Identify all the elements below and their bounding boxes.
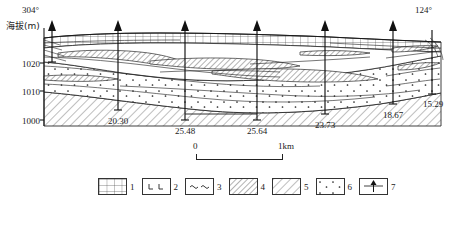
legend-num-4: 4 [261,182,266,192]
legend-item-6: 6 [316,178,353,195]
grid-mesh-swatch [98,178,127,195]
legend-num-1: 1 [130,182,135,192]
legend-item-5: 5 [272,178,309,195]
wide-hatch-swatch [272,178,301,195]
borehole-symbol-swatch [359,178,388,195]
borehole-label-18-67: 18.67 [373,110,413,120]
wave-mark-swatch [185,178,214,195]
borehole-label-25-64: 25.64 [237,126,277,136]
borehole-label-20-30: 20.30 [98,116,138,126]
legend-num-6: 6 [348,182,353,192]
legend: 1 2 3 4 5 6 [98,178,396,195]
legend-num-5: 5 [304,182,309,192]
legend-item-2: 2 [142,178,179,195]
scale-min-label: 0 [193,141,198,151]
legend-num-3: 3 [217,182,222,192]
legend-num-2: 2 [174,182,179,192]
scale-bar-line [196,154,283,160]
dot-swatch [316,178,345,195]
borehole-label-25-48: 25.48 [165,126,205,136]
dense-hatch-swatch [229,178,258,195]
borehole-label-15-29: 15.29 [413,99,453,109]
legend-item-3: 3 [185,178,222,195]
scale-max-label: 1km [278,141,294,151]
l-mark-swatch [142,178,171,195]
legend-item-7: 7 [359,178,396,195]
legend-item-1: 1 [98,178,135,195]
borehole-label-23-73: 23.73 [305,120,345,130]
legend-num-7: 7 [391,182,396,192]
legend-item-4: 4 [229,178,266,195]
y-axis [40,28,44,126]
